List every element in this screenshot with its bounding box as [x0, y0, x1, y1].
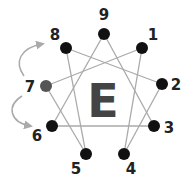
node-8: [60, 42, 72, 54]
node-9: [98, 28, 110, 40]
enneagram-diagram: E 912345678: [0, 0, 191, 186]
node-6: [46, 120, 58, 132]
node-label-5: 5: [71, 160, 81, 178]
node-label-8: 8: [50, 26, 60, 44]
center-letter: E: [87, 74, 118, 128]
node-3: [148, 120, 160, 132]
node-label-9: 9: [99, 6, 109, 24]
node-label-2: 2: [171, 76, 181, 94]
node-label-4: 4: [126, 160, 136, 178]
node-label-7: 7: [25, 78, 35, 96]
node-5: [80, 148, 92, 160]
node-label-1: 1: [148, 26, 158, 44]
node-7: [40, 80, 52, 92]
node-1: [136, 42, 148, 54]
node-label-6: 6: [32, 127, 42, 145]
arrow-7-to-8-icon: [19, 44, 42, 76]
node-4: [118, 148, 130, 160]
node-label-3: 3: [164, 119, 174, 137]
arrow-7-to-6-icon: [12, 96, 30, 126]
node-2: [156, 78, 168, 90]
